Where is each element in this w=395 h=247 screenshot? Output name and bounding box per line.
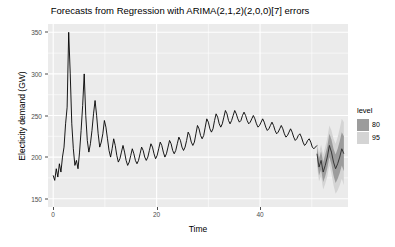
legend-key-swatch xyxy=(357,119,369,131)
legend-entry[interactable]: 95 xyxy=(357,131,395,144)
legend-key-swatch xyxy=(357,132,369,144)
y-tick-label: 300 xyxy=(16,70,42,77)
y-tick-label: 350 xyxy=(16,29,42,36)
plot-svg xyxy=(48,24,348,207)
x-tick-mark xyxy=(260,207,261,210)
x-axis: 02040 xyxy=(48,207,348,223)
chart-title: Forecasts from Regression with ARIMA(2,1… xyxy=(0,5,360,16)
y-axis: 150200250300350 xyxy=(14,24,48,207)
legend-entry-label: 80 xyxy=(372,121,380,128)
legend: level 8095 xyxy=(357,106,395,144)
observed-series-line xyxy=(53,32,317,180)
legend-title: level xyxy=(357,106,395,115)
y-tick-label: 200 xyxy=(16,154,42,161)
y-tick-label: 150 xyxy=(16,195,42,202)
plot-panel xyxy=(48,24,348,207)
x-axis-title: Time xyxy=(48,224,348,234)
y-tick-label: 250 xyxy=(16,112,42,119)
x-tick-mark xyxy=(53,207,54,210)
legend-entry[interactable]: 80 xyxy=(357,118,395,131)
legend-entries: 8095 xyxy=(357,118,395,144)
legend-entry-label: 95 xyxy=(372,134,380,141)
forecast-chart: Forecasts from Regression with ARIMA(2,1… xyxy=(0,0,395,247)
x-tick-label: 20 xyxy=(145,211,169,218)
x-tick-label: 40 xyxy=(248,211,272,218)
x-tick-label: 0 xyxy=(41,211,65,218)
x-tick-mark xyxy=(157,207,158,210)
